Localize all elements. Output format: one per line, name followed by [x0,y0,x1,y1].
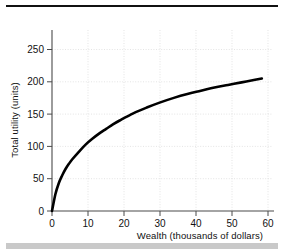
y-tick-labels: 0 50 100 150 200 250 [27,44,44,217]
x-tick-label: 10 [82,218,94,229]
total-utility-curve [52,78,262,211]
x-tick-label: 60 [262,218,274,229]
x-tick-label: 0 [49,218,55,229]
x-tick-label: 20 [118,218,130,229]
y-tick-label: 150 [27,109,44,120]
figure-container: 0 50 100 150 200 250 0 10 20 30 40 50 60… [0,0,284,252]
y-tick-label: 0 [38,206,44,217]
y-tick-label: 250 [27,44,44,55]
x-tick-marks [52,211,268,216]
y-tick-label: 200 [27,76,44,87]
horizontal-gridlines [52,50,272,179]
y-tick-label: 100 [27,141,44,152]
x-axis-title: Wealth (thousands of dollars) [137,230,263,241]
axes [52,30,274,211]
x-tick-label: 30 [154,218,166,229]
x-tick-label: 40 [190,218,202,229]
vertical-gridlines [88,30,268,211]
y-tick-marks [47,50,52,212]
x-tick-labels: 0 10 20 30 40 50 60 [49,218,274,229]
y-axis-title: Total utility (units) [9,82,20,157]
bottom-gray-bar [6,243,278,249]
y-tick-label: 50 [33,173,45,184]
utility-curve-chart: 0 50 100 150 200 250 0 10 20 30 40 50 60… [0,0,284,252]
x-tick-label: 50 [226,218,238,229]
